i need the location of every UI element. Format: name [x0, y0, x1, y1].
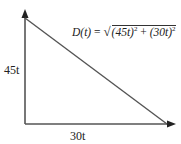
right-arrow-icon	[167, 121, 176, 128]
formula-lhs: D(t)	[72, 26, 91, 38]
formula-term2: (30t)	[150, 26, 172, 38]
horizontal-side-label: 30t	[70, 130, 85, 142]
formula-exp2: 2	[172, 25, 176, 33]
formula-equals: =	[94, 26, 101, 38]
sqrt-icon: √	[103, 24, 110, 39]
radicand: (45t)2 + (30t)2	[112, 25, 176, 39]
formula-plus: +	[140, 26, 147, 38]
formula-exp1: 2	[134, 25, 138, 33]
formula-term1: (45t)	[112, 26, 134, 38]
up-arrow-icon	[22, 9, 29, 18]
distance-formula: D(t) = √(45t)2 + (30t)2	[72, 25, 176, 39]
triangle-diagram	[0, 0, 181, 144]
vertical-side-label: 45t	[4, 64, 19, 76]
